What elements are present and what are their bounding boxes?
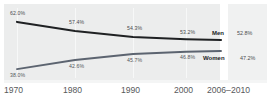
women-value-1980: 42.6%	[69, 64, 84, 69]
men-value-1990: 54.3%	[127, 26, 142, 31]
xtick-1990: 1990	[121, 86, 140, 95]
women-value-2000: 46.8%	[180, 55, 195, 60]
line-chart: 62.0% 57.4% 54.3% 53.2% 38.0% 42.6% 45.7…	[0, 0, 271, 102]
women-value-1970: 38.0%	[10, 73, 25, 78]
men-value-2000: 53.2%	[180, 30, 195, 35]
men-value-1970: 62.0%	[10, 11, 25, 16]
xtick-1980: 1980	[63, 86, 82, 95]
xtick-1970: 1970	[4, 86, 23, 95]
series-label-men: Men	[212, 30, 224, 36]
women-value-1990: 45.7%	[127, 58, 142, 63]
series-label-women: Women	[203, 55, 225, 61]
xtick-2000: 2000	[174, 86, 193, 95]
xtick-2006-2010: 2006–2010	[207, 86, 250, 95]
men-value-2006-2010: 52.8%	[237, 31, 252, 36]
women-value-2006-2010: 47.2%	[240, 56, 255, 61]
men-value-1980: 57.4%	[69, 20, 84, 25]
